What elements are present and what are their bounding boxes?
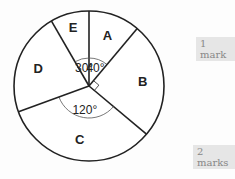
angle-label-c: 120° [72, 103, 97, 117]
slice-label-d: D [34, 61, 43, 76]
mark-label-2: 2 marks [193, 145, 235, 169]
slice-label-e: E [69, 20, 78, 35]
angle-label-e: 30° [75, 61, 93, 75]
slice-label-a: A [103, 28, 113, 43]
slice-label-b: B [138, 74, 147, 89]
mark-label-1: 1 mark [196, 37, 235, 61]
slice-label-c: C [75, 132, 85, 147]
